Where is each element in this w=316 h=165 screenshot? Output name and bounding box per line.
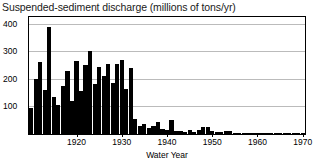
x-tick-label: 1950 bbox=[203, 138, 222, 147]
x-tick-label: 1930 bbox=[112, 138, 131, 147]
x-axis: 192019301940195019601970 bbox=[0, 0, 316, 165]
x-tick-label: 1920 bbox=[67, 138, 86, 147]
x-tick-label: 1960 bbox=[248, 138, 267, 147]
x-axis-title: Water Year bbox=[146, 151, 188, 160]
x-tick-label: 1940 bbox=[158, 138, 177, 147]
x-tick-label: 1970 bbox=[293, 138, 312, 147]
chart-figure: Suspended-sediment discharge (millions o… bbox=[0, 0, 316, 165]
